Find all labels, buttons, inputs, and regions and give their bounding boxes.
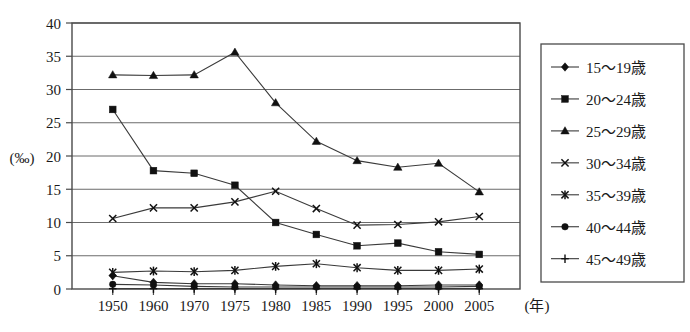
x-tick-label: 1995 [383,298,413,314]
x-tick-label: 1950 [98,298,128,314]
x-axis-unit-label: (年) [525,298,550,315]
data-point-triangle [231,48,239,55]
data-point-square [232,182,239,189]
legend-item-label: 40〜44歳 [586,220,646,236]
legend-item-label: 35〜39歳 [586,188,646,204]
data-point-cross [109,215,116,222]
data-point-square [562,96,569,103]
x-tick-label: 1990 [342,298,372,314]
y-tick-label: 10 [46,215,61,231]
legend-item-label: 15〜19歳 [586,60,646,76]
data-point-square [476,251,483,258]
axis-labels-group: (‰)(年) [10,150,550,315]
data-point-square [313,231,320,238]
legend-item-label: 30〜34歳 [586,156,646,172]
data-point-triangle [190,71,198,78]
x-tick-label: 1960 [138,298,168,314]
data-point-diamond [561,63,568,71]
data-point-triangle [434,159,442,166]
data-point-triangle [109,71,117,78]
chart-svg: 0510152025303540 19501960197019751980198… [0,0,690,332]
data-point-square [150,167,157,174]
y-tick-label: 5 [54,248,62,264]
y-axis-ticks: 0510152025303540 [46,16,72,298]
x-axis-ticks: 1950196019701975198019851990199520002005 [98,289,495,314]
data-point-cross [272,188,279,195]
y-tick-label: 40 [46,16,61,32]
data-point-triangle [561,127,569,134]
y-tick-label: 15 [46,182,61,198]
chart-figure: 0510152025303540 19501960197019751980198… [0,0,690,332]
x-tick-label: 1970 [179,298,209,314]
legend-item-label: 20〜24歳 [586,92,646,108]
series-line [113,264,480,273]
legend-item-5[interactable]: 40〜44歳 [551,220,646,236]
y-tick-label: 25 [46,115,61,131]
legend-item-6[interactable]: 45〜49歳 [551,252,646,268]
data-point-square [109,106,116,113]
data-point-square [272,219,279,226]
series-1 [109,106,482,258]
legend: 15〜19歳20〜24歳25〜29歳30〜34歳35〜39歳40〜44歳45〜4… [541,44,684,282]
data-point-square [435,248,442,255]
series-2 [109,48,484,195]
x-tick-label: 1985 [301,298,331,314]
series-line [113,109,480,254]
data-point-circle [562,223,569,230]
y-tick-label: 30 [46,82,61,98]
x-tick-label: 1975 [220,298,250,314]
series-line [113,276,480,286]
data-point-cross [313,205,320,212]
legend-item-0[interactable]: 15〜19歳 [551,60,646,76]
legend-item-label: 25〜29歳 [586,124,646,140]
series-line [113,191,480,225]
legend-item-4[interactable]: 35〜39歳 [551,188,646,204]
y-tick-label: 35 [46,49,61,65]
data-point-square [354,242,361,249]
data-point-square [394,240,401,247]
data-point-triangle [353,156,361,163]
data-point-plus [561,254,569,262]
x-tick-label: 1980 [261,298,291,314]
series-4 [109,259,483,276]
y-axis-unit-label: (‰) [10,150,35,167]
legend-item-3[interactable]: 30〜34歳 [551,156,646,172]
data-point-square [191,170,198,177]
x-tick-label: 2005 [464,298,494,314]
legend-item-1[interactable]: 20〜24歳 [551,92,646,108]
gridlines-group [72,23,520,256]
series-line [113,52,480,192]
legend-item-label: 45〜49歳 [586,252,646,268]
x-tick-label: 2000 [424,298,454,314]
y-tick-label: 20 [46,149,61,165]
y-tick-label: 0 [54,282,62,298]
legend-item-2[interactable]: 25〜29歳 [551,124,646,140]
